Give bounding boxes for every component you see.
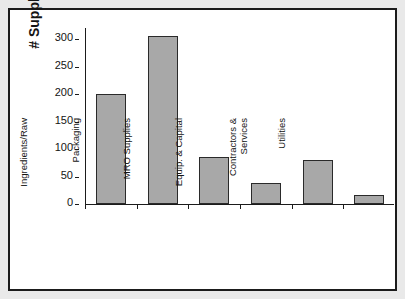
- bar: [354, 195, 384, 204]
- x-axis-tick-mark: [343, 204, 344, 209]
- chart-frame-border: # Suppliers 050100150200250300 Ingredien…: [8, 8, 397, 291]
- x-axis-tick-mark: [292, 204, 293, 209]
- x-axis-tick-mark: [85, 204, 86, 209]
- figure-canvas: # Suppliers 050100150200250300 Ingredien…: [0, 0, 405, 299]
- y-axis-tick-label: 250: [55, 60, 73, 71]
- x-axis-tick-mark: [395, 204, 396, 209]
- bar: [303, 160, 333, 204]
- x-axis-tick-label: MRO Supplies: [122, 118, 133, 214]
- x-axis-tick-mark: [137, 204, 138, 209]
- x-axis-tick-label: Packaging: [71, 118, 82, 214]
- x-axis-tick-label: Ingredients/Raw: [19, 118, 30, 214]
- y-axis-tick-label: 200: [55, 87, 73, 98]
- x-axis-tick-label: Utilities: [277, 118, 288, 214]
- plot-area: 050100150200250300 Ingredients/RawPackag…: [85, 28, 395, 204]
- x-axis-tick-mark: [188, 204, 189, 209]
- bar: [199, 157, 229, 204]
- y-axis-tick-mark: [75, 67, 79, 68]
- y-axis-line: [85, 28, 86, 204]
- y-axis-tick-label: 300: [55, 32, 73, 43]
- y-axis-title: # Suppliers: [26, 0, 42, 66]
- x-axis-tick-label: Contractors &Services: [228, 118, 249, 214]
- x-axis-tick-label: Equip. & Capital: [174, 118, 185, 214]
- y-axis-tick-mark: [75, 39, 79, 40]
- y-axis-tick-mark: [75, 94, 79, 95]
